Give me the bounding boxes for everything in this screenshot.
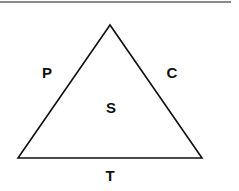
label-center: S <box>106 100 116 115</box>
label-base: T <box>105 168 114 183</box>
triangle-diagram <box>0 0 239 191</box>
triangle <box>18 25 202 158</box>
label-left-side: P <box>42 65 52 80</box>
label-right-side: C <box>167 65 178 80</box>
